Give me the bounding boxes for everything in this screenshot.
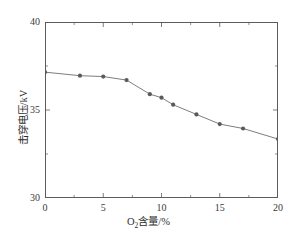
x-axis-label: O2含量/% [0, 213, 297, 230]
data-point [101, 74, 105, 78]
xtick-label-10: 10 [157, 203, 167, 213]
y-axis-label: 击穿电压/kV [15, 58, 30, 178]
data-point [124, 78, 128, 82]
data-point [78, 74, 82, 78]
series-markers [45, 70, 278, 141]
chart-plot-svg [45, 22, 278, 198]
chart-figure: 40 35 30 0 5 10 15 20 击穿电压/kV O2含量/% [0, 0, 297, 241]
data-point [241, 126, 245, 130]
data-point [159, 96, 163, 100]
ytick-label-30: 30 [14, 193, 40, 203]
axis-ticks [45, 22, 278, 198]
xtick-label-15: 15 [215, 203, 225, 213]
data-point [171, 103, 175, 107]
data-point [148, 92, 152, 96]
xtick-label-5: 5 [101, 203, 106, 213]
xtick-label-20: 20 [273, 203, 283, 213]
x-axis-label-post: 含量/% [138, 216, 170, 227]
x-axis-label-pre: O [127, 216, 135, 227]
data-point [194, 112, 198, 116]
ytick-label-40: 40 [14, 17, 40, 27]
data-point [218, 122, 222, 126]
data-point [45, 70, 47, 74]
data-point [276, 137, 278, 141]
xtick-label-0: 0 [43, 203, 48, 213]
